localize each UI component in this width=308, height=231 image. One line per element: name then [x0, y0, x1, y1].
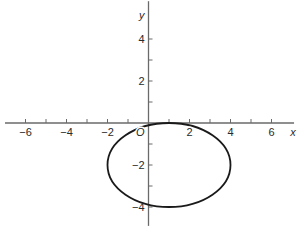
y-tick-label: −4 [132, 201, 145, 213]
x-tick-label: 6 [268, 126, 274, 138]
x-tick-label: −2 [101, 126, 114, 138]
y-tick-label: 2 [138, 75, 144, 87]
y-axis-label: y [138, 9, 146, 21]
labels: −6−4−224642−2−4Oxy [19, 9, 296, 213]
curves [108, 123, 231, 207]
x-tick-label: −6 [19, 126, 32, 138]
x-axis-label: x [289, 126, 296, 138]
origin-label: O [136, 126, 145, 138]
x-tick-label: 2 [186, 126, 192, 138]
x-tick-label: 4 [227, 126, 233, 138]
ellipse-plot: −6−4−224642−2−4Oxy [0, 0, 308, 231]
ellipse-curve [108, 123, 231, 207]
y-tick-label: 4 [138, 33, 144, 45]
y-tick-label: −2 [132, 159, 145, 171]
axes [5, 1, 294, 226]
x-tick-label: −4 [60, 126, 73, 138]
